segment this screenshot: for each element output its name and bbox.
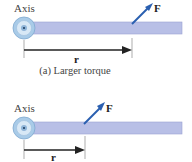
diagram-b-graphic <box>0 81 192 162</box>
caption: (a) Larger torque <box>0 65 150 76</box>
axis-label: Axis <box>14 3 35 14</box>
radius-label: r⃗ <box>74 54 87 65</box>
lever-bar <box>22 22 182 34</box>
axis-label: Axis <box>14 103 35 114</box>
panel-smaller-torque: Axis F⃗ r⃗ <box>0 81 192 162</box>
radius-label: r⃗ <box>51 152 64 162</box>
lever-bar <box>22 122 182 134</box>
panel-larger-torque: Axis F⃗ r⃗ (a) Larger torque <box>0 0 192 81</box>
force-arrow-icon <box>84 102 105 124</box>
force-label: F⃗ <box>154 3 169 14</box>
force-arrow-icon <box>132 3 153 24</box>
pivot-axis-icon <box>13 117 35 139</box>
force-label: F⃗ <box>106 103 121 114</box>
pivot-axis-icon <box>13 17 35 39</box>
